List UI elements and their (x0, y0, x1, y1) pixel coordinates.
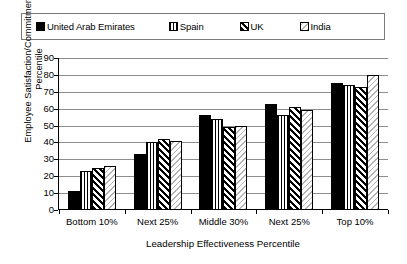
x-axis-tick-mark (256, 210, 257, 214)
bar-group (191, 58, 257, 210)
y-axis-tick-label: 30 (36, 155, 54, 165)
y-axis-tick-label: 0 (36, 205, 54, 215)
y-axis-tick-label: 40 (36, 138, 54, 148)
bar (265, 104, 277, 210)
x-axis-tick-mark (322, 210, 323, 214)
bar (92, 168, 104, 210)
legend-swatch-spain (169, 22, 178, 31)
bar (223, 127, 235, 210)
legend-item-united-arab-emirates: United Arab Emirates (36, 14, 135, 39)
bar-group (125, 58, 191, 210)
x-axis-tick-marks (59, 210, 388, 215)
x-axis-tick-label: Bottom 10% (66, 216, 118, 227)
legend-label-uk: UK (251, 22, 264, 32)
bar-group (59, 58, 125, 210)
legend-item-india: India (300, 14, 331, 39)
legend-item-spain: Spain (169, 14, 204, 39)
y-axis-tick-label: 70 (36, 87, 54, 97)
chart-legend: United Arab Emirates Spain UK India (21, 13, 385, 40)
x-axis-tick-labels: Bottom 10%Next 25%Middle 30%Next 25%Top … (59, 216, 388, 230)
legend-label-india: India (311, 22, 331, 32)
legend-label-united-arab-emirates: United Arab Emirates (47, 22, 135, 32)
bar (277, 115, 289, 210)
y-axis-title-line1: Employee Satisfaction/Commitment (23, 0, 34, 143)
bar-group (256, 58, 322, 210)
legend-swatch-india (300, 22, 309, 31)
bar (331, 83, 343, 210)
bar (68, 191, 80, 210)
bars-layer (59, 58, 388, 210)
bar (80, 171, 92, 210)
bar-chart: United Arab Emirates Spain UK India Empl… (0, 0, 407, 264)
bar (211, 119, 223, 210)
bar (104, 166, 116, 210)
x-axis-title: Leadership Effectiveness Percentile (58, 238, 388, 249)
y-axis-tick-label: 90 (36, 53, 54, 63)
y-axis-tick-label: 20 (36, 171, 54, 181)
y-axis-tick-label: 50 (36, 121, 54, 131)
bar (134, 154, 146, 210)
bar (235, 126, 247, 210)
x-axis-tick-mark (59, 210, 60, 214)
legend-item-uk: UK (240, 14, 264, 39)
bar (343, 85, 355, 210)
bar (158, 139, 170, 210)
y-axis-tick-label: 10 (36, 188, 54, 198)
x-axis-tick-label: Next 25% (269, 216, 310, 227)
bar (289, 107, 301, 210)
bar (367, 75, 379, 210)
y-axis-tick-mark (54, 210, 58, 211)
x-axis-tick-mark (388, 210, 389, 214)
x-axis-tick-label: Middle 30% (199, 216, 249, 227)
legend-swatch-uk (240, 22, 249, 31)
x-axis-tick-label: Top 10% (337, 216, 374, 227)
x-axis-tick-mark (125, 210, 126, 214)
bar-group (322, 58, 388, 210)
y-axis-tick-label: 80 (36, 70, 54, 80)
bar (301, 110, 313, 210)
y-axis-tick-label: 60 (36, 104, 54, 114)
bar (199, 115, 211, 210)
x-axis-tick-label: Next 25% (137, 216, 178, 227)
y-axis-tick-labels: 0102030405060708090 (34, 58, 54, 210)
bar (146, 142, 158, 210)
bar (170, 141, 182, 210)
bar (355, 87, 367, 210)
legend-label-spain: Spain (180, 22, 204, 32)
x-axis-tick-mark (191, 210, 192, 214)
